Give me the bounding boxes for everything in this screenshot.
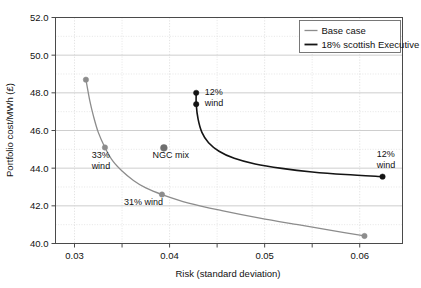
annotation-line: 33% xyxy=(92,150,110,160)
y-tick-label: 44.0 xyxy=(30,163,49,174)
annotation-line: wind xyxy=(376,160,396,170)
annot-12-wind-left: 12%wind xyxy=(204,87,224,108)
annot-12-wind-right: 12%wind xyxy=(376,149,396,170)
annot-ngc-mix: NGC mix xyxy=(152,150,189,160)
annotation-line: 12% xyxy=(377,149,395,159)
annotation-line: NGC mix xyxy=(152,150,189,160)
data-point-marker xyxy=(380,174,385,179)
x-tick-label: 0.04 xyxy=(160,250,179,261)
annotation-line: wind xyxy=(204,98,224,108)
y-tick-label: 42.0 xyxy=(30,200,49,211)
data-point-marker xyxy=(194,90,199,95)
y-tick-label: 46.0 xyxy=(30,125,49,136)
annot-33-wind: 33%wind xyxy=(91,150,111,171)
legend-label: 18% scottish Executive xyxy=(322,39,420,50)
data-point-marker xyxy=(194,101,199,106)
data-point-marker xyxy=(362,233,367,238)
y-tick-label: 52.0 xyxy=(30,12,49,23)
x-tick-label: 0.05 xyxy=(255,250,274,261)
annotation-line: 31% wind xyxy=(124,197,163,207)
y-axis-title: Portfolio cost/MWh (£) xyxy=(4,83,15,177)
x-tick-label: 0.06 xyxy=(350,250,369,261)
legend-label: Base case xyxy=(322,25,366,36)
chart-page: 0.030.040.050.0652.050.048.046.044.042.0… xyxy=(0,0,421,288)
y-tick-label: 40.0 xyxy=(30,238,49,249)
annotation-line: wind xyxy=(91,161,111,171)
annotation-line: 12% xyxy=(205,87,223,97)
portfolio-risk-cost-chart: 0.030.040.050.0652.050.048.046.044.042.0… xyxy=(0,0,421,288)
x-axis-title: Risk (standard deviation) xyxy=(175,268,280,279)
y-tick-label: 48.0 xyxy=(30,87,49,98)
annot-31-wind: 31% wind xyxy=(124,197,163,207)
y-tick-label: 50.0 xyxy=(30,50,49,61)
legend-item-scottish-executive[interactable]: 18% scottish Executive xyxy=(305,39,420,50)
data-point-marker xyxy=(83,77,88,82)
x-tick-label: 0.03 xyxy=(65,250,84,261)
